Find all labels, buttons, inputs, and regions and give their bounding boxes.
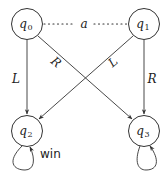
edge-label-a: a: [80, 17, 87, 31]
edge-q0-q3: [38, 36, 132, 119]
win-label: win: [40, 147, 61, 161]
svg-text:q: q: [19, 124, 27, 138]
game-state-diagram: a L R R L q 0 q 1 q 2 q 3 win: [0, 0, 168, 172]
svg-text:q: q: [136, 124, 144, 138]
state-q1: q 1: [129, 9, 160, 40]
edge-label-q1-q3: R: [146, 72, 156, 86]
edge-label-q0-q2: L: [11, 72, 20, 86]
state-q3: q 3: [129, 116, 160, 147]
edge-label-q0-q3: R: [47, 53, 64, 70]
edge-label-q1-q2: L: [105, 54, 121, 71]
state-q2: q 2: [12, 116, 43, 147]
svg-text:2: 2: [27, 130, 32, 139]
svg-text:q: q: [19, 17, 27, 31]
self-loop-q2: [13, 146, 33, 170]
svg-text:1: 1: [144, 23, 149, 32]
svg-text:q: q: [136, 17, 144, 31]
self-loop-q3: [137, 146, 156, 170]
edge-q1-q2: [39, 36, 133, 119]
svg-text:0: 0: [27, 23, 32, 32]
svg-text:3: 3: [144, 130, 149, 139]
state-q0: q 0: [12, 9, 43, 40]
